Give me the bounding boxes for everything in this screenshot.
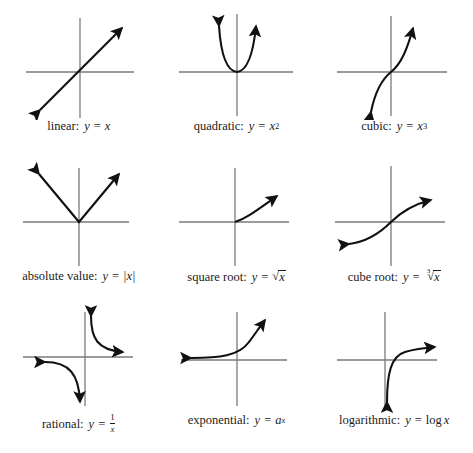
fraction-one-over-x: 1 x (110, 413, 115, 434)
caption-linear: linear: y = x (47, 120, 110, 133)
equation-lhs: y (247, 271, 258, 284)
panel-cube-root: cube root: y = 3√x (315, 152, 473, 302)
plot-cube-root (319, 152, 469, 270)
equation-equals: = (254, 120, 269, 133)
caption-logarithmic: logarithmic: y = logx (339, 414, 449, 427)
caption-label-linear: linear: (47, 120, 79, 133)
fraction-numerator: 1 (110, 413, 115, 423)
equation-equals: = (260, 414, 275, 427)
equation-exponent: x (281, 416, 285, 425)
equation-lhs: y (392, 120, 403, 133)
caption-square-root: square root: y = √x (187, 270, 285, 284)
caption-label-absolute-value: absolute value: (22, 270, 97, 283)
equation-equals: = (402, 120, 417, 133)
equation-equals: = (108, 270, 123, 283)
equation-function-name: log (426, 414, 444, 427)
plot-exponential (161, 302, 311, 414)
curve-rational-branch-2 (45, 362, 80, 402)
equation-equals: = (94, 418, 109, 431)
caption-exponential: exponential: y = ax (188, 414, 285, 427)
plot-absolute-value (1, 152, 156, 270)
plot-logarithmic (319, 302, 469, 414)
caption-label-square-root: square root: (187, 271, 246, 284)
plot-quadratic (161, 0, 311, 120)
radical-square-root: √x (272, 270, 285, 284)
panel-cubic: cubic: y = x3 (315, 0, 473, 152)
equation-lhs: y (250, 414, 261, 427)
radical-cube-root: 3√x (424, 270, 441, 284)
plot-square-root (161, 152, 311, 270)
caption-label-exponential: exponential: (188, 414, 250, 427)
plot-cubic (319, 0, 469, 120)
equation-argument: x (444, 414, 450, 427)
curve-exponential (191, 320, 265, 358)
panel-logarithmic: logarithmic: y = logx (315, 302, 473, 453)
panel-absolute-value: absolute value: y = |x| (0, 152, 158, 302)
equation-exponent: 2 (275, 122, 279, 131)
equation-equals: = (257, 271, 272, 284)
panel-linear: linear: y = x (0, 0, 158, 152)
radical-sign: √ (272, 270, 279, 283)
parent-functions-grid: linear: y = x quadratic: y = x2 cubic: y (0, 0, 473, 453)
caption-rational: rational: y = 1 x (42, 414, 116, 435)
radical-index: 3 (427, 268, 431, 275)
curve-logarithmic (387, 347, 435, 402)
radicand: x (278, 270, 286, 284)
radicand: x (433, 270, 441, 284)
caption-cubic: cubic: y = x3 (361, 120, 427, 133)
equation-lhs: y (244, 120, 255, 133)
caption-label-cube-root: cube root: (348, 271, 398, 284)
equation-lhs: y (400, 414, 411, 427)
caption-label-quadratic: quadratic: (194, 120, 244, 133)
curve-square-root (235, 196, 277, 222)
equation-lhs: y (398, 271, 409, 284)
equation-lhs: y (84, 418, 95, 431)
caption-cube-root: cube root: y = 3√x (348, 270, 441, 284)
caption-label-cubic: cubic: (361, 120, 392, 133)
equation-rhs: |x| (123, 270, 135, 283)
equation-equals: = (409, 271, 424, 284)
equation-lhs: y (97, 270, 108, 283)
fraction-denominator: x (110, 424, 114, 434)
equation-equals: = (411, 414, 426, 427)
caption-absolute-value: absolute value: y = |x| (22, 270, 135, 283)
curve-rational-branch-1 (91, 316, 123, 352)
caption-quadratic: quadratic: y = x2 (194, 120, 279, 133)
panel-square-root: square root: y = √x (158, 152, 316, 302)
plot-rational (1, 302, 156, 414)
panel-quadratic: quadratic: y = x2 (158, 0, 316, 152)
curve-cubic (371, 28, 413, 112)
equation-exponent: 3 (423, 122, 427, 131)
equation-equals: = (90, 120, 105, 133)
caption-label-logarithmic: logarithmic: (339, 414, 400, 427)
equation-rhs: x (105, 120, 111, 133)
panel-exponential: exponential: y = ax (158, 302, 316, 453)
equation-lhs: y (79, 120, 90, 133)
plot-linear (4, 0, 154, 120)
panel-rational: rational: y = 1 x (0, 302, 158, 453)
caption-label-rational: rational: (42, 418, 84, 431)
curve-linear (40, 28, 122, 110)
